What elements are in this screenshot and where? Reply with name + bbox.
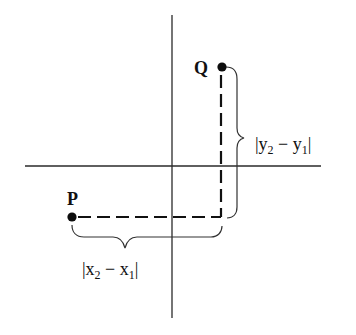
var-x1: x xyxy=(120,259,129,279)
abs-close: | xyxy=(308,134,312,154)
horizontal-distance-label: |x2 − x1| xyxy=(82,259,138,282)
horizontal-distance-brace xyxy=(72,225,222,248)
vertical-distance-label: |y2 − y1| xyxy=(255,134,311,157)
point-p-label: P xyxy=(67,189,78,209)
var-x2: x xyxy=(86,259,95,279)
minus-sign: − xyxy=(101,259,120,279)
var-y1: y xyxy=(293,134,302,154)
point-p-marker xyxy=(67,212,76,221)
abs-close: | xyxy=(135,259,139,279)
vertical-distance-brace xyxy=(226,67,244,218)
point-q-label: Q xyxy=(194,58,208,78)
distance-diagram: P Q |y2 − y1| |x2 − x1| xyxy=(0,0,356,335)
point-q-marker xyxy=(217,62,226,71)
var-y2: y xyxy=(259,134,268,154)
minus-sign: − xyxy=(274,134,293,154)
